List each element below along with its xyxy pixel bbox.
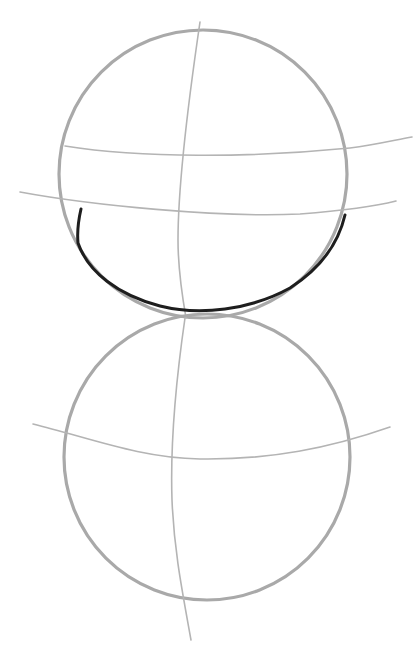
bottom-horizontal-guide — [33, 424, 390, 459]
top-vertical-guide — [178, 22, 200, 318]
sketch-canvas — [0, 0, 416, 652]
top-nose-guide — [20, 192, 396, 215]
bottom-circle-outline — [64, 314, 350, 600]
top-jaw-ink-line — [78, 209, 345, 311]
bottom-sphere — [33, 314, 390, 640]
top-circle-outline — [59, 30, 347, 318]
top-sphere — [20, 22, 412, 318]
bottom-vertical-guide — [172, 318, 191, 640]
top-eye-guide — [65, 137, 412, 155]
